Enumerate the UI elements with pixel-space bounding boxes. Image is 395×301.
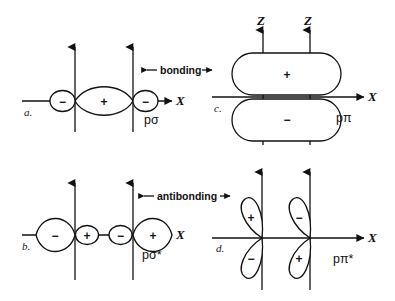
panel-a-sigma-bonding: − + − X a. pσ (22, 47, 185, 132)
panel-a-sign-right: − (142, 95, 149, 109)
panel-a-sign-center: + (100, 95, 107, 109)
panel-d-axis-label-x: X (367, 230, 377, 245)
panel-d-pi-antibonding: + − − + X d. pπ* (212, 172, 377, 290)
panel-b-orbital-label: pσ* (142, 248, 162, 262)
panel-c-sign-top: + (283, 68, 290, 82)
panel-c-orbital-label: pπ (336, 111, 352, 125)
panel-b-sign-right-inner: − (117, 229, 124, 243)
panel-d-sign-left-bottom: − (247, 252, 254, 266)
panel-b-axis-label-x: X (175, 227, 185, 242)
panel-d-sign-right-top: − (295, 211, 302, 225)
label-bonding-group: bonding (147, 64, 212, 76)
panel-a-axis-label-x: X (175, 93, 185, 108)
label-antibonding-group: antibonding (144, 190, 230, 202)
panel-c-sign-bottom: − (283, 113, 290, 127)
antibonding-label: antibonding (157, 190, 217, 202)
panel-d-sign-left-top: + (247, 211, 254, 225)
panel-b-sign-left-inner: + (83, 229, 90, 243)
panel-c-pi-bonding: + − Z Z X c. pπ (212, 13, 377, 145)
panel-a-orbital-label: pσ (144, 113, 159, 127)
panel-b-letter: b. (22, 240, 30, 252)
panel-c-letter: c. (214, 102, 222, 114)
panel-c-axis-label-z-right: Z (303, 13, 312, 28)
panel-b-sign-left-outer: − (51, 229, 58, 243)
orbital-diagram-figure: − + − X a. pσ bonding + − Z Z X c. pπ (0, 0, 395, 301)
panel-a-letter: a. (24, 106, 32, 118)
panel-d-orbital-label: pπ* (333, 252, 354, 266)
bonding-label: bonding (160, 64, 201, 76)
panel-d-sign-right-bottom: + (295, 252, 302, 266)
panel-a-sign-left: − (59, 95, 66, 109)
panel-c-axis-label-x: X (367, 89, 377, 104)
panel-d-letter: d. (216, 242, 224, 254)
panel-b-sign-right-outer: + (149, 229, 156, 243)
panel-c-axis-label-z-left: Z (256, 13, 265, 28)
